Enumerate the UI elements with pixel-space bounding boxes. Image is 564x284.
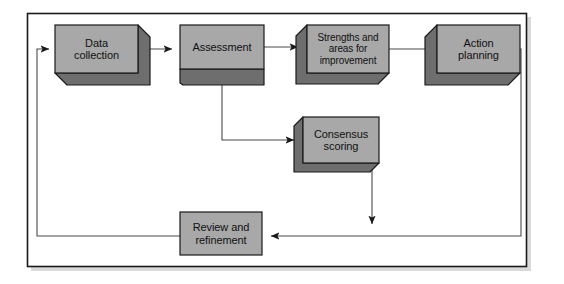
flowchart-canvas xyxy=(0,0,564,284)
node-review-refinement[interactable] xyxy=(180,212,262,255)
node-consensus-scoring[interactable] xyxy=(294,117,379,172)
node-assessment[interactable] xyxy=(180,25,264,85)
node-action-planning[interactable] xyxy=(425,25,520,85)
node-strengths-areas-improvement[interactable] xyxy=(296,25,389,84)
node-data-collection[interactable] xyxy=(55,25,150,85)
process-flow-diagram: Data collection Assessment Strengths and… xyxy=(0,0,564,284)
